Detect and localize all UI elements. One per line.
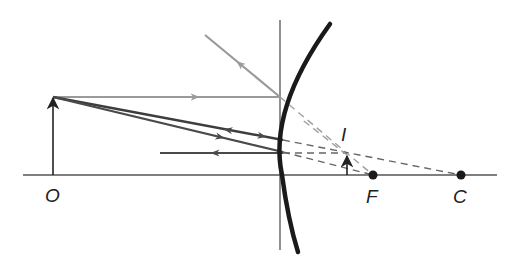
center-point (457, 171, 466, 180)
reflected-ray (205, 35, 280, 97)
focal-point (369, 171, 378, 180)
image-label: I (341, 124, 347, 145)
ray-to-center (53, 97, 283, 140)
center-label: C (453, 186, 467, 207)
focal-point-label: F (366, 186, 379, 207)
convex-mirror-ray-diagram: O I F C (0, 0, 512, 272)
object-label: O (45, 185, 60, 206)
virtual-extensions (280, 97, 461, 175)
ray-to-focus (53, 97, 283, 152)
convex-mirror (279, 24, 330, 252)
